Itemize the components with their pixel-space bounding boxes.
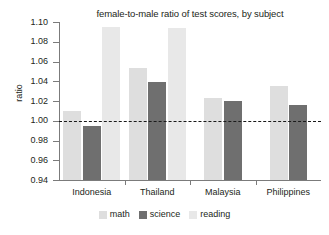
- bar-plot-area: [59, 22, 321, 180]
- legend-item-science[interactable]: science: [139, 210, 181, 219]
- y-tick-label: 1.04: [8, 77, 48, 86]
- bar-malaysia-science: [224, 101, 242, 180]
- legend-item-reading[interactable]: reading: [189, 210, 230, 219]
- legend-swatch-math-icon: [99, 211, 107, 219]
- y-tick-label: 0.96: [8, 156, 48, 165]
- bar-philippines-math: [270, 86, 288, 180]
- y-tick-label: 1.08: [8, 37, 48, 46]
- y-tick-label: 1.06: [8, 57, 48, 66]
- x-tick-mark: [190, 181, 191, 185]
- x-tick-mark: [125, 181, 126, 185]
- bar-indonesia-reading: [102, 27, 120, 180]
- y-tick-label: 0.94: [8, 176, 48, 185]
- chart-title: female-to-male ratio of test scores, by …: [60, 8, 320, 19]
- chart-figure: female-to-male ratio of test scores, by …: [0, 0, 329, 235]
- y-tick-label: 1.02: [8, 97, 48, 106]
- y-tick-mark: [53, 180, 59, 181]
- legend-label: science: [150, 210, 181, 219]
- y-tick-label: 1.10: [8, 18, 48, 27]
- x-category-label: Philippines: [256, 187, 322, 197]
- legend-swatch-reading-icon: [189, 211, 197, 219]
- bar-indonesia-science: [83, 126, 101, 180]
- legend-swatch-science-icon: [139, 211, 147, 219]
- x-category-label: Indonesia: [59, 187, 125, 197]
- y-tick-label: 1.00: [8, 116, 48, 125]
- x-category-label: Thailand: [125, 187, 191, 197]
- bar-thailand-reading: [168, 28, 186, 180]
- bar-philippines-science: [289, 105, 307, 180]
- reference-line-1.00: [59, 121, 321, 122]
- chart-legend: mathsciencereading: [0, 210, 329, 219]
- legend-item-math[interactable]: math: [99, 210, 130, 219]
- legend-label: reading: [200, 210, 230, 219]
- y-tick-label: 0.98: [8, 136, 48, 145]
- bar-thailand-science: [148, 82, 166, 180]
- y-axis-label: ratio: [14, 68, 24, 118]
- x-tick-mark: [256, 181, 257, 185]
- legend-label: math: [110, 210, 130, 219]
- x-category-label: Malaysia: [190, 187, 256, 197]
- bar-malaysia-math: [204, 98, 222, 180]
- bar-thailand-math: [129, 68, 147, 180]
